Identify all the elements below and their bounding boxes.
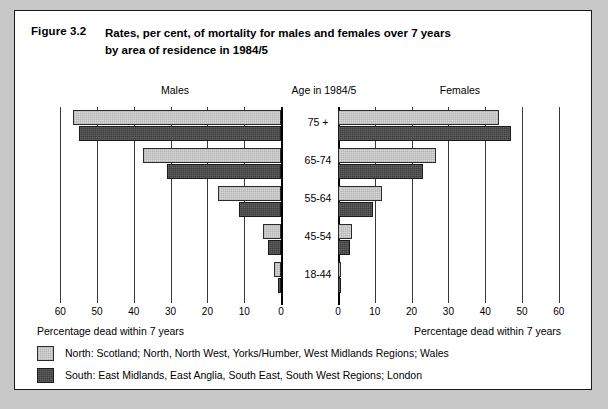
- axis-tick: [171, 297, 172, 303]
- axis-tick-label: 20: [195, 306, 219, 317]
- axis-caption-females: Percentage dead within 7 years: [414, 325, 561, 337]
- axis-tick: [281, 297, 283, 305]
- axis-tick-label: 20: [400, 306, 424, 317]
- figure-title: Rates, per cent, of mortality for males …: [105, 25, 575, 59]
- axis-tick: [485, 297, 486, 303]
- heading-males: Males: [135, 84, 215, 96]
- axis-tick: [338, 297, 340, 305]
- figure-number: Figure 3.2: [31, 25, 86, 37]
- plot-panel-females: 0102030405060: [332, 107, 572, 297]
- axis-tick: [448, 297, 449, 303]
- bar-males-north-5564: [218, 186, 281, 201]
- gridline: [522, 107, 523, 297]
- axis-tick-label: 40: [473, 306, 497, 317]
- axis-tick: [375, 297, 376, 303]
- axis-tick: [97, 297, 98, 303]
- age-label-75+: 75 +: [287, 116, 349, 128]
- axis-tick: [60, 297, 61, 303]
- axis-tick: [522, 297, 523, 303]
- legend-label-south: South: East Midlands, East Anglia, South…: [65, 368, 422, 383]
- axis-tick-label: 30: [436, 306, 460, 317]
- bar-females-south-75+: [338, 126, 511, 141]
- bar-males-south-75+: [79, 126, 281, 141]
- axis-tick-label: 10: [363, 306, 387, 317]
- axis-tick-label: 40: [122, 306, 146, 317]
- age-label-1844: 18-44: [287, 268, 349, 280]
- bar-females-north-75+: [338, 110, 499, 125]
- axis-tick: [559, 297, 560, 303]
- axis-tick-label: 50: [510, 306, 534, 317]
- gridline: [60, 107, 61, 297]
- age-label-6574: 65-74: [287, 154, 349, 166]
- axis-tick-label: 0: [326, 306, 350, 317]
- bar-males-north-75+: [73, 110, 281, 125]
- figure-title-line-1: Rates, per cent, of mortality for males …: [105, 27, 451, 39]
- axis-tick-label: 10: [232, 306, 256, 317]
- axis-tick: [244, 297, 245, 303]
- age-label-5564: 55-64: [287, 192, 349, 204]
- legend-swatch-north-icon: [37, 346, 54, 361]
- age-label-4554: 45-54: [287, 230, 349, 242]
- axis-tick: [134, 297, 135, 303]
- bar-males-south-1844: [278, 278, 281, 293]
- bar-females-north-6574: [338, 148, 436, 163]
- axis-tick-label: 60: [48, 306, 72, 317]
- plot-panel-males: 0102030405060: [37, 107, 287, 297]
- bar-females-south-6574: [338, 164, 423, 179]
- bar-males-north-1844: [274, 262, 281, 277]
- axis-zero-line: [281, 107, 283, 297]
- bar-males-north-6574: [143, 148, 281, 163]
- legend-label-north: North: Scotland; North, North West, York…: [65, 346, 449, 361]
- figure-title-line-2: by area of residence in 1984/5: [105, 44, 268, 56]
- bar-males-south-6574: [167, 164, 281, 179]
- gridline: [559, 107, 560, 297]
- bar-males-south-5564: [239, 202, 281, 217]
- axis-tick-label: 60: [547, 306, 571, 317]
- axis-caption-males: Percentage dead within 7 years: [37, 325, 184, 337]
- axis-tick-label: 0: [269, 306, 293, 317]
- axis-tick-label: 30: [159, 306, 183, 317]
- axis-tick: [207, 297, 208, 303]
- bar-males-south-4554: [268, 240, 281, 255]
- heading-females: Females: [420, 84, 500, 96]
- heading-age: Age in 1984/5: [274, 84, 374, 96]
- bar-males-north-4554: [263, 224, 281, 239]
- figure-panel: Figure 3.2 Rates, per cent, of mortality…: [14, 10, 592, 390]
- axis-tick-label: 50: [85, 306, 109, 317]
- axis-tick: [412, 297, 413, 303]
- legend-swatch-south-icon: [37, 368, 54, 383]
